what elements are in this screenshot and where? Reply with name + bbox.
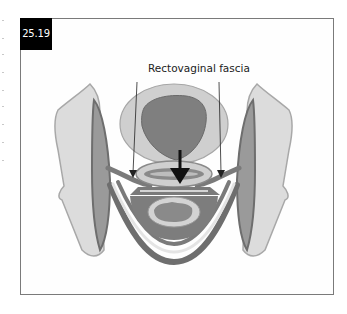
right-pelvic-bone <box>237 84 292 256</box>
rectovaginal-fascia-label: Rectovaginal fascia <box>148 62 250 74</box>
figure-number-badge: 25.19 <box>20 18 52 50</box>
anatomy-illustration <box>0 0 347 314</box>
left-pelvic-bone <box>55 84 110 256</box>
